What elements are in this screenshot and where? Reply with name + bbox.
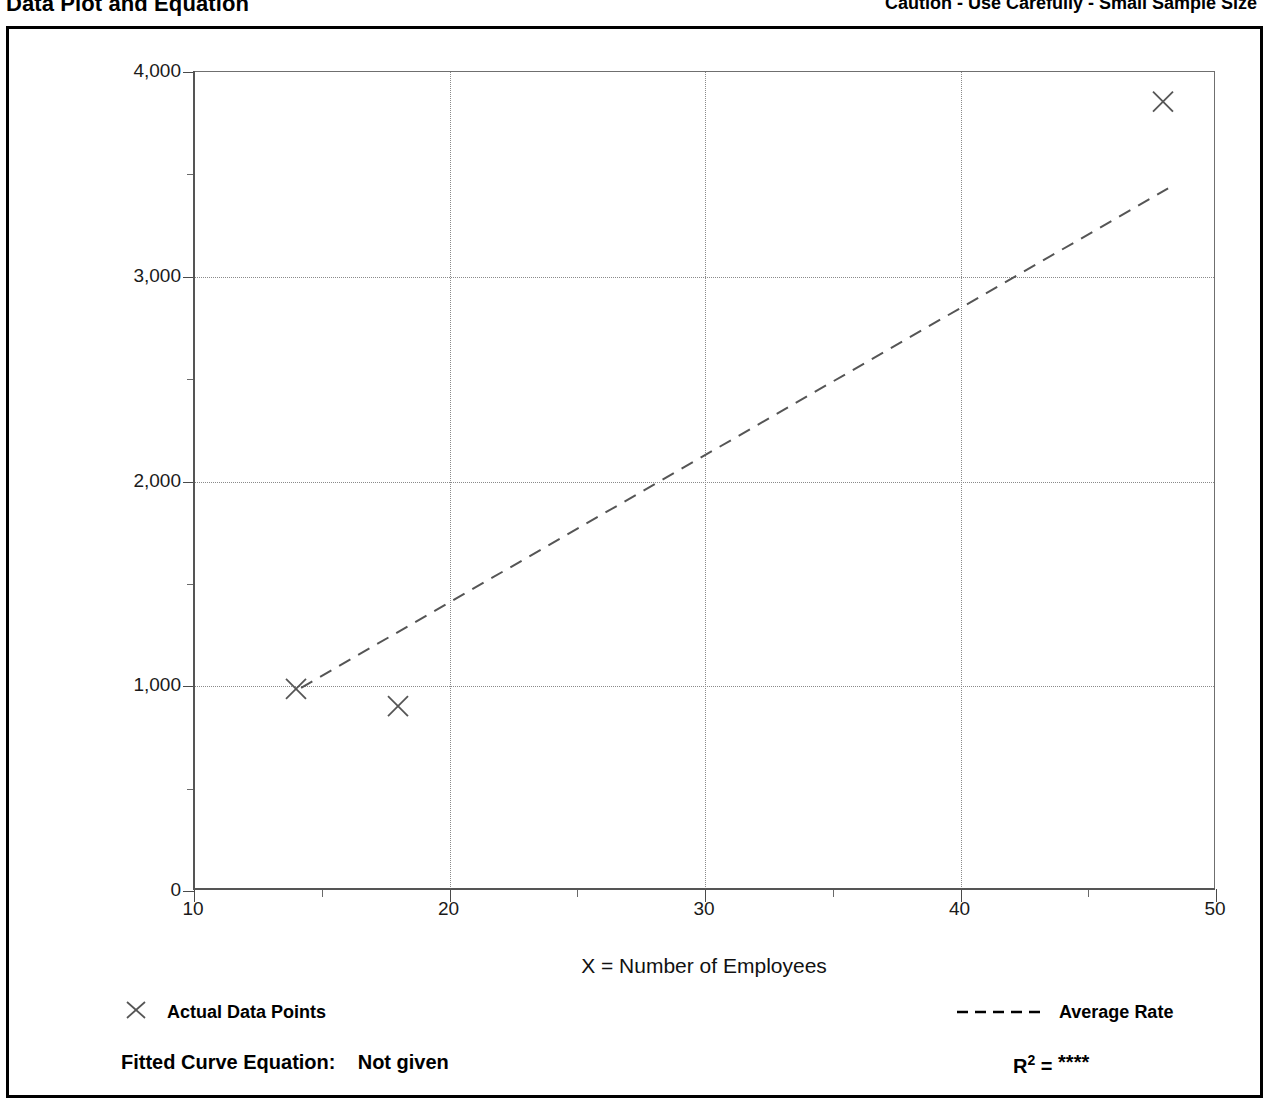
x-marker-icon	[121, 997, 151, 1023]
x-axis-tick-minor	[577, 889, 578, 897]
r-squared-equals: =	[1041, 1055, 1053, 1077]
legend-label-average-rate: Average Rate	[1059, 997, 1173, 1023]
data-point-marker	[286, 679, 306, 699]
x-axis-tick-label: 20	[438, 898, 459, 920]
page-header: Data Plot and Equation Caution - Use Car…	[0, 0, 1273, 21]
chart-legend: Actual Data Points Average Rate	[9, 997, 1266, 1043]
fitted-curve-equation-value: Not given	[358, 1051, 449, 1073]
data-point-marker	[388, 696, 408, 716]
y-axis-tick-label: 4,000	[133, 60, 181, 82]
data-point-marker	[1153, 92, 1173, 112]
x-axis-title: X = Number of Employees	[193, 954, 1215, 978]
fitted-curve-equation-label: Fitted Curve Equation:	[121, 1051, 335, 1073]
y-axis-tick-label: 0	[170, 879, 181, 901]
x-axis-tick-minor	[1088, 889, 1089, 897]
y-axis-tick-labels: 01,0002,0003,0004,000	[47, 71, 181, 890]
r-squared-value: R2 = ****	[1013, 1051, 1089, 1078]
page-title: Data Plot and Equation	[6, 0, 249, 17]
y-axis-tick	[183, 891, 194, 892]
legend-item-actual-data-points: Actual Data Points	[121, 997, 326, 1023]
series-actual-data-points	[286, 92, 1173, 717]
legend-label-actual-data-points: Actual Data Points	[167, 997, 326, 1023]
series-average-rate	[301, 188, 1168, 687]
chart-footer: Fitted Curve Equation: Not given R2 = **…	[9, 1051, 1266, 1091]
x-axis-tick-label: 10	[182, 898, 203, 920]
plot-area	[193, 71, 1215, 890]
caution-notice: Caution - Use Carefully - Small Sample S…	[885, 0, 1257, 14]
y-axis-tick-label: 1,000	[133, 674, 181, 696]
data-series-layer	[194, 72, 1214, 889]
dashed-line-icon	[957, 1003, 1041, 1017]
x-axis-tick-minor	[833, 889, 834, 897]
x-axis-tick-label: 40	[949, 898, 970, 920]
y-axis-tick-label: 2,000	[133, 470, 181, 492]
r-squared-label: R	[1013, 1055, 1027, 1077]
fitted-curve-equation: Fitted Curve Equation: Not given	[121, 1051, 449, 1074]
x-axis-tick-label: 30	[693, 898, 714, 920]
x-axis-tick-minor	[322, 889, 323, 897]
r-squared-stars: ****	[1058, 1051, 1089, 1073]
r-squared-exponent: 2	[1027, 1052, 1035, 1068]
chart-frame: T = Average Vehicle Trip Ends 01,0002,00…	[6, 26, 1263, 1098]
y-axis-tick-label: 3,000	[133, 265, 181, 287]
scatter-chart: T = Average Vehicle Trip Ends 01,0002,00…	[9, 29, 1266, 1101]
trend-line	[301, 188, 1168, 687]
legend-item-average-rate: Average Rate	[957, 997, 1173, 1023]
x-axis-tick-label: 50	[1204, 898, 1225, 920]
x-axis-tick-labels: 1020304050	[193, 898, 1215, 930]
